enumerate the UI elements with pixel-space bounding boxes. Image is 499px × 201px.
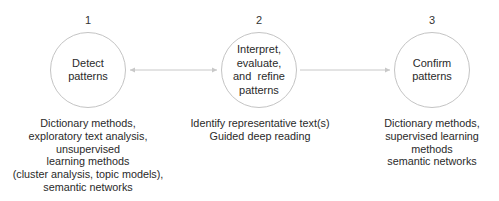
step-1-methods: Dictionary methods, exploratory text ana…	[8, 117, 168, 194]
step-1-number: 1	[68, 14, 108, 26]
step-3-method-line: semantic networks	[367, 155, 497, 168]
step-3-method-line: Dictionary methods,	[367, 117, 497, 130]
step-3-methods: Dictionary methods, supervised learning …	[367, 117, 497, 168]
step-3-label: Confirm patterns	[408, 57, 456, 84]
step-3-label-line: patterns	[412, 70, 452, 84]
step-1-method-line: semantic networks	[8, 181, 168, 194]
step-2-label-line: patterns	[233, 84, 285, 98]
step-3-node-confirm-patterns: Confirm patterns	[394, 32, 470, 108]
step-2-methods: Identify representative text(s) Guided d…	[180, 117, 340, 143]
step-2-method-line: Guided deep reading	[180, 130, 340, 143]
step-1-method-line: (cluster analysis, topic models),	[8, 168, 168, 181]
step-1-node-detect-patterns: Detect patterns	[50, 32, 126, 108]
step-1-label: Detect patterns	[64, 57, 112, 84]
step-1-label-line: Detect	[68, 57, 108, 71]
step-1-method-line: exploratory text analysis,	[8, 130, 168, 143]
step-2-label-line: and refine	[233, 70, 285, 84]
step-1-method-line: Dictionary methods,	[8, 117, 168, 130]
step-3-number: 3	[412, 14, 452, 26]
step-2-method-line: Identify representative text(s)	[180, 117, 340, 130]
step-2-number: 2	[239, 14, 279, 26]
step-2-label: Interpret, evaluate, and refine patterns	[229, 43, 289, 97]
step-2-label-line: evaluate,	[233, 57, 285, 71]
step-2-node-interpret-evaluate-refine: Interpret, evaluate, and refine patterns	[221, 32, 297, 108]
step-3-method-line: methods	[367, 143, 497, 156]
step-1-method-line: unsupervised	[8, 143, 168, 156]
step-1-method-line: learning methods	[8, 155, 168, 168]
step-3-method-line: supervised learning	[367, 130, 497, 143]
step-3-label-line: Confirm	[412, 57, 452, 71]
three-step-pattern-diagram: 1 Detect patterns Dictionary methods, ex…	[0, 0, 499, 201]
step-1-label-line: patterns	[68, 70, 108, 84]
step-2-label-line: Interpret,	[233, 43, 285, 57]
